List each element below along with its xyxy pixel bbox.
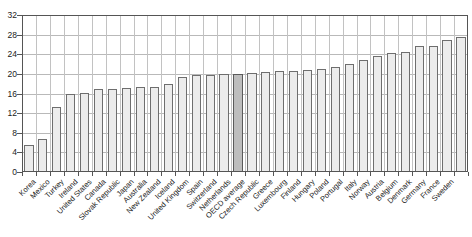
bar	[38, 139, 47, 172]
y-axis: 048121620242832	[0, 0, 22, 172]
x-tick-mark	[203, 172, 204, 176]
y-tick-label: 28	[8, 31, 17, 39]
x-tick-mark	[398, 172, 399, 176]
bar	[303, 70, 312, 172]
x-tick-mark	[36, 172, 37, 176]
bar	[415, 46, 424, 172]
x-tick-mark	[22, 172, 23, 176]
x-tick-mark	[343, 172, 344, 176]
x-tick-mark	[217, 172, 218, 176]
x-tick-mark	[468, 172, 469, 176]
bar	[178, 77, 187, 172]
x-tick-mark	[231, 172, 232, 176]
bar	[456, 37, 465, 172]
x-tick-mark	[161, 172, 162, 176]
x-tick-mark	[412, 172, 413, 176]
x-tick-mark	[329, 172, 330, 176]
bar	[401, 52, 410, 172]
bar	[24, 145, 33, 172]
x-tick-mark	[315, 172, 316, 176]
bar	[247, 73, 256, 172]
x-tick-mark	[106, 172, 107, 176]
x-tick-mark	[64, 172, 65, 176]
bar	[94, 89, 103, 172]
x-tick-mark	[357, 172, 358, 176]
y-tick-label: 20	[8, 70, 17, 78]
x-tick-mark	[440, 172, 441, 176]
bar	[219, 74, 228, 172]
y-tick-label: 12	[8, 109, 17, 117]
y-tick-label: 24	[8, 50, 17, 58]
x-tick-mark	[259, 172, 260, 176]
bar	[261, 72, 270, 172]
bar	[317, 69, 326, 172]
bars-layer	[22, 15, 468, 172]
x-tick-mark	[287, 172, 288, 176]
y-tick-label: 16	[8, 90, 17, 98]
bar	[331, 67, 340, 172]
bar	[345, 64, 354, 172]
bar	[206, 75, 215, 172]
x-tick-mark	[384, 172, 385, 176]
x-tick-mark	[370, 172, 371, 176]
bar	[442, 40, 451, 172]
x-tick-mark	[454, 172, 455, 176]
x-tick-mark	[147, 172, 148, 176]
x-tick-mark	[273, 172, 274, 176]
y-tick-label: 32	[8, 11, 17, 19]
x-tick-mark	[92, 172, 93, 176]
x-axis: KoreaMexicoTurkeyIrelandUnited StatesCan…	[22, 172, 468, 237]
bar	[373, 56, 382, 172]
x-tick-mark	[78, 172, 79, 176]
bar	[136, 87, 145, 172]
x-tick-mark	[189, 172, 190, 176]
bar	[66, 94, 75, 172]
x-tick-mark	[426, 172, 427, 176]
x-tick-mark	[134, 172, 135, 176]
x-tick-mark	[120, 172, 121, 176]
bar-chart: 048121620242832 KoreaMexicoTurkeyIreland…	[0, 0, 472, 237]
bar	[192, 75, 201, 172]
x-tick-mark	[175, 172, 176, 176]
x-tick-mark	[50, 172, 51, 176]
bar	[233, 74, 242, 172]
bar	[289, 71, 298, 172]
bar	[429, 46, 438, 172]
bar	[359, 60, 368, 172]
bar	[275, 71, 284, 172]
bar	[122, 88, 131, 172]
bar	[80, 93, 89, 172]
bar	[164, 84, 173, 172]
bar	[108, 89, 117, 172]
bar	[387, 53, 396, 172]
bar	[52, 107, 61, 172]
plot-area	[22, 15, 468, 172]
x-tick-mark	[301, 172, 302, 176]
x-tick-mark	[245, 172, 246, 176]
bar	[150, 87, 159, 172]
